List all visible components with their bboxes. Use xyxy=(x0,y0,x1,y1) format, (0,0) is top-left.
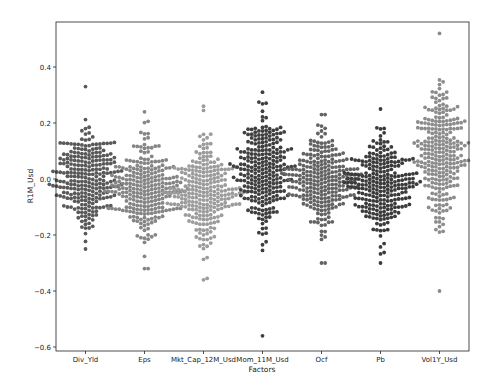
data-point xyxy=(279,164,283,168)
data-point xyxy=(209,185,213,189)
data-point xyxy=(239,162,243,166)
data-point xyxy=(202,233,206,237)
data-point xyxy=(268,148,272,152)
data-point xyxy=(187,207,191,211)
y-tick-label: −0.4 xyxy=(34,288,52,296)
data-point xyxy=(146,212,150,216)
data-point xyxy=(441,146,445,150)
data-point xyxy=(205,170,209,174)
data-point xyxy=(312,199,316,203)
data-point xyxy=(184,201,188,205)
data-point xyxy=(353,177,357,181)
data-point xyxy=(320,178,324,182)
data-point xyxy=(368,181,372,185)
data-point xyxy=(94,151,98,155)
data-point xyxy=(327,179,331,183)
data-point xyxy=(386,184,390,188)
data-point xyxy=(404,158,408,162)
data-point xyxy=(327,160,331,164)
data-point xyxy=(434,181,438,185)
data-point xyxy=(379,189,383,193)
data-point xyxy=(371,172,375,176)
data-point xyxy=(157,202,161,206)
data-point xyxy=(209,208,213,212)
data-point xyxy=(302,168,306,172)
data-point xyxy=(153,215,157,219)
data-point xyxy=(393,205,397,209)
data-point xyxy=(257,177,261,181)
data-point xyxy=(153,183,157,187)
data-point xyxy=(330,183,334,187)
data-point xyxy=(441,139,445,143)
data-point xyxy=(386,212,390,216)
data-point xyxy=(423,121,427,125)
data-point xyxy=(264,202,268,206)
data-point xyxy=(261,172,265,176)
data-point xyxy=(294,186,298,190)
data-point xyxy=(438,178,442,182)
data-point xyxy=(386,187,390,191)
data-point xyxy=(368,155,372,159)
data-point xyxy=(346,177,350,181)
data-point xyxy=(220,174,224,178)
data-point xyxy=(194,173,198,177)
data-point xyxy=(294,194,298,198)
data-point xyxy=(187,219,191,223)
data-point xyxy=(69,179,73,183)
data-point xyxy=(102,196,106,200)
data-point xyxy=(434,220,438,224)
data-point xyxy=(143,146,147,150)
data-point xyxy=(411,181,415,185)
data-point xyxy=(309,170,313,174)
data-point xyxy=(400,186,404,190)
data-point xyxy=(87,200,91,204)
data-point xyxy=(320,197,324,201)
data-point xyxy=(205,146,209,150)
data-point xyxy=(202,187,206,191)
data-point xyxy=(216,168,220,172)
data-point xyxy=(330,161,334,165)
data-point xyxy=(407,185,411,189)
data-point xyxy=(168,166,172,170)
data-point xyxy=(253,130,257,134)
data-point xyxy=(361,197,365,201)
data-point xyxy=(386,204,390,208)
data-point xyxy=(412,160,416,164)
data-point xyxy=(194,208,198,212)
data-point xyxy=(375,222,379,226)
data-point xyxy=(271,206,275,210)
data-point xyxy=(353,181,357,185)
data-point xyxy=(128,178,132,182)
data-point xyxy=(198,165,202,169)
data-point xyxy=(146,222,150,226)
data-point xyxy=(143,151,147,155)
data-point xyxy=(330,148,334,152)
data-point xyxy=(275,194,279,198)
data-point xyxy=(423,144,427,148)
data-point xyxy=(430,118,434,122)
data-point xyxy=(121,177,125,181)
data-point xyxy=(202,109,206,113)
data-point xyxy=(261,248,265,252)
data-point xyxy=(114,181,118,185)
data-point xyxy=(427,172,431,176)
data-point xyxy=(441,187,445,191)
data-point xyxy=(327,215,331,219)
data-point xyxy=(202,104,206,108)
data-point xyxy=(84,207,88,211)
data-point xyxy=(102,154,106,158)
data-point xyxy=(84,222,88,226)
data-point xyxy=(393,198,397,202)
data-point xyxy=(448,158,452,162)
data-point xyxy=(368,193,372,197)
data-point xyxy=(80,219,84,223)
data-point xyxy=(302,159,306,163)
data-point xyxy=(430,181,434,185)
data-point xyxy=(150,164,154,168)
data-point xyxy=(441,123,445,127)
data-point xyxy=(323,149,327,153)
data-point xyxy=(382,154,386,158)
data-point xyxy=(393,155,397,159)
data-point xyxy=(397,179,401,183)
data-point xyxy=(379,214,383,218)
